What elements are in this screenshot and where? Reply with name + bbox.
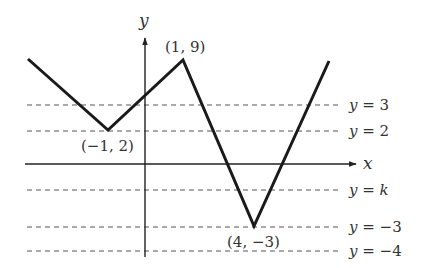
function-graph [28,59,329,226]
line-label-y-neg3: y = −3 [348,218,402,236]
dashed-reference-lines [27,105,340,251]
graph-diagram: y x (−1, 2) (1, 9) (4, −3) y = 3 y = 2 y… [0,0,425,268]
line-label-y-2: y = 2 [348,122,389,140]
point-label-min-left: (−1, 2) [81,137,134,155]
point-label-min-right: (4, −3) [227,233,280,251]
line-labels: y = 3 y = 2 y = k y = −3 y = −4 [348,96,402,260]
line-label-y-k: y = k [348,181,389,199]
x-axis-label: x [363,153,373,173]
line-label-y-3: y = 3 [348,96,389,114]
point-label-peak: (1, 9) [165,38,205,56]
y-axis-label: y [138,10,149,30]
line-label-y-neg4: y = −4 [348,242,402,260]
